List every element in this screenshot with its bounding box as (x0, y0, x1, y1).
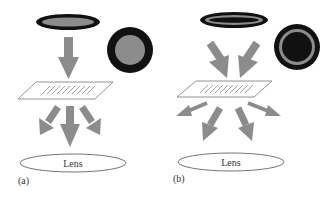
arrow-far-left (176, 103, 207, 116)
specimen-slide-b (177, 81, 272, 97)
incident-oblique-arrows (209, 43, 258, 78)
arrow-far-right (248, 103, 281, 116)
condenser-disc-face-view (107, 27, 153, 73)
incident-light-arrow (58, 37, 79, 79)
scattered-light-arrows (176, 103, 281, 141)
transmitted-light-arrows (39, 106, 101, 147)
lens-label-b: Lens (221, 157, 241, 168)
panel-label-b: (b) (173, 173, 185, 185)
specimen-slide (18, 82, 113, 99)
arrow-mid-left (202, 108, 220, 141)
arrow-oblique-right (238, 43, 258, 78)
arrow-left (39, 107, 58, 135)
objective-lens: Lens (20, 154, 126, 172)
lens-label: Lens (63, 158, 83, 169)
arrow-oblique-left (209, 43, 229, 78)
arrow-right (82, 107, 101, 135)
diagram-canvas: Lens (a) (0, 0, 334, 199)
annular-condenser-face-view (274, 24, 320, 70)
arrow-center (60, 106, 80, 147)
condenser-disc-side-view (36, 14, 100, 30)
panel-b: Lens (b) (173, 12, 320, 185)
panel-a: Lens (a) (18, 14, 153, 187)
objective-lens-b: Lens (178, 153, 284, 171)
annular-condenser-side-view (200, 12, 268, 28)
arrow-mid-right (238, 108, 254, 141)
panel-label-a: (a) (18, 175, 29, 187)
